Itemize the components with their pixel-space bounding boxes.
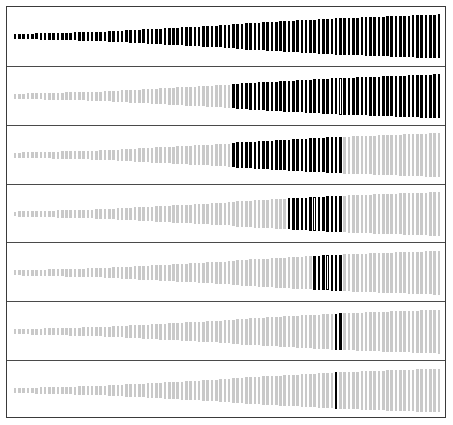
bar-selected[interactable] (258, 82, 261, 110)
bar-unselected[interactable] (138, 90, 141, 103)
bar-unselected[interactable] (185, 322, 188, 340)
bar-unselected[interactable] (369, 136, 372, 175)
bar-unselected[interactable] (151, 207, 154, 222)
bar-unselected[interactable] (181, 87, 184, 105)
bar-unselected[interactable] (373, 371, 376, 410)
bar-unselected[interactable] (27, 270, 30, 276)
bar-unselected[interactable] (198, 263, 201, 283)
bar-unselected[interactable] (142, 89, 145, 103)
bar-unselected[interactable] (22, 388, 25, 393)
bar-unselected[interactable] (168, 265, 171, 282)
bar-unselected[interactable] (206, 204, 209, 225)
bar-unselected[interactable] (228, 261, 231, 284)
bar-unselected[interactable] (202, 322, 205, 342)
bar-unselected[interactable] (352, 313, 355, 350)
bar-unselected[interactable] (35, 211, 38, 217)
bar-unselected[interactable] (172, 323, 175, 340)
bar-selected[interactable] (108, 31, 111, 41)
bar-selected[interactable] (134, 30, 137, 43)
bar-selected[interactable] (369, 17, 372, 56)
bar-unselected[interactable] (172, 205, 175, 222)
bar-unselected[interactable] (14, 329, 17, 334)
bar-unselected[interactable] (108, 91, 111, 101)
bar-unselected[interactable] (44, 93, 47, 99)
bar-unselected[interactable] (91, 92, 94, 101)
bar-unselected[interactable] (412, 193, 415, 235)
bar-unselected[interactable] (159, 324, 162, 340)
bar-unselected[interactable] (378, 194, 381, 233)
bar-unselected[interactable] (224, 320, 227, 343)
bar-selected[interactable] (288, 21, 291, 52)
bar-unselected[interactable] (40, 93, 43, 99)
bar-unselected[interactable] (296, 375, 299, 407)
bar-unselected[interactable] (408, 252, 411, 294)
bar-unselected[interactable] (22, 152, 25, 157)
bar-unselected[interactable] (172, 88, 175, 105)
bar-selected[interactable] (262, 82, 265, 110)
bar-unselected[interactable] (142, 384, 145, 398)
bar-selected[interactable] (159, 29, 162, 45)
bar-unselected[interactable] (408, 134, 411, 176)
bar-selected[interactable] (95, 32, 98, 41)
bar-selected[interactable] (112, 31, 115, 42)
bar-unselected[interactable] (91, 386, 94, 395)
bar-selected[interactable] (296, 198, 299, 230)
bar-unselected[interactable] (147, 266, 150, 280)
bar-unselected[interactable] (408, 193, 411, 235)
bar-unselected[interactable] (228, 320, 231, 343)
bar-unselected[interactable] (147, 207, 150, 221)
bar-unselected[interactable] (142, 148, 145, 162)
bar-selected[interactable] (164, 28, 167, 44)
bar-unselected[interactable] (211, 145, 214, 166)
bar-unselected[interactable] (194, 145, 197, 164)
bar-selected[interactable] (313, 20, 316, 54)
bar-unselected[interactable] (117, 150, 120, 161)
bar-selected[interactable] (369, 77, 372, 116)
bar-unselected[interactable] (438, 192, 441, 236)
bar-unselected[interactable] (185, 146, 188, 164)
bar-selected[interactable] (331, 19, 334, 55)
bar-unselected[interactable] (99, 327, 102, 336)
bar-unselected[interactable] (22, 329, 25, 334)
bar-selected[interactable] (343, 78, 346, 115)
bar-selected[interactable] (219, 25, 222, 47)
bar-unselected[interactable] (44, 152, 47, 158)
bar-unselected[interactable] (69, 269, 72, 277)
chart-panel-7[interactable] (7, 360, 445, 419)
bar-unselected[interactable] (219, 144, 222, 166)
bar-unselected[interactable] (99, 386, 102, 395)
bar-unselected[interactable] (65, 269, 68, 277)
bar-selected[interactable] (326, 19, 329, 54)
bar-unselected[interactable] (168, 88, 171, 105)
bar-unselected[interactable] (271, 199, 274, 228)
bar-selected[interactable] (403, 76, 406, 117)
bar-unselected[interactable] (412, 134, 415, 176)
bar-unselected[interactable] (78, 151, 81, 159)
bar-selected[interactable] (395, 76, 398, 117)
bar-unselected[interactable] (87, 327, 90, 336)
bar-unselected[interactable] (155, 89, 158, 104)
bar-selected[interactable] (399, 16, 402, 57)
bar-unselected[interactable] (309, 256, 312, 289)
bar-unselected[interactable] (82, 269, 85, 277)
bar-selected[interactable] (232, 84, 235, 108)
bar-selected[interactable] (331, 78, 334, 114)
bar-selected[interactable] (292, 198, 295, 229)
bar-unselected[interactable] (215, 321, 218, 343)
bar-unselected[interactable] (164, 88, 167, 104)
bar-selected[interactable] (339, 255, 342, 292)
bar-selected[interactable] (155, 29, 158, 44)
bar-unselected[interactable] (266, 317, 269, 346)
bar-unselected[interactable] (416, 311, 419, 353)
bar-selected[interactable] (318, 197, 321, 231)
bar-unselected[interactable] (91, 151, 94, 160)
bar-unselected[interactable] (181, 146, 184, 164)
bar-selected[interactable] (309, 80, 312, 113)
bar-unselected[interactable] (104, 209, 107, 219)
bar-selected[interactable] (262, 141, 265, 169)
bar-unselected[interactable] (301, 374, 304, 406)
bar-unselected[interactable] (164, 206, 167, 222)
bar-unselected[interactable] (262, 376, 265, 404)
bar-unselected[interactable] (74, 328, 77, 336)
bar-unselected[interactable] (416, 369, 419, 411)
